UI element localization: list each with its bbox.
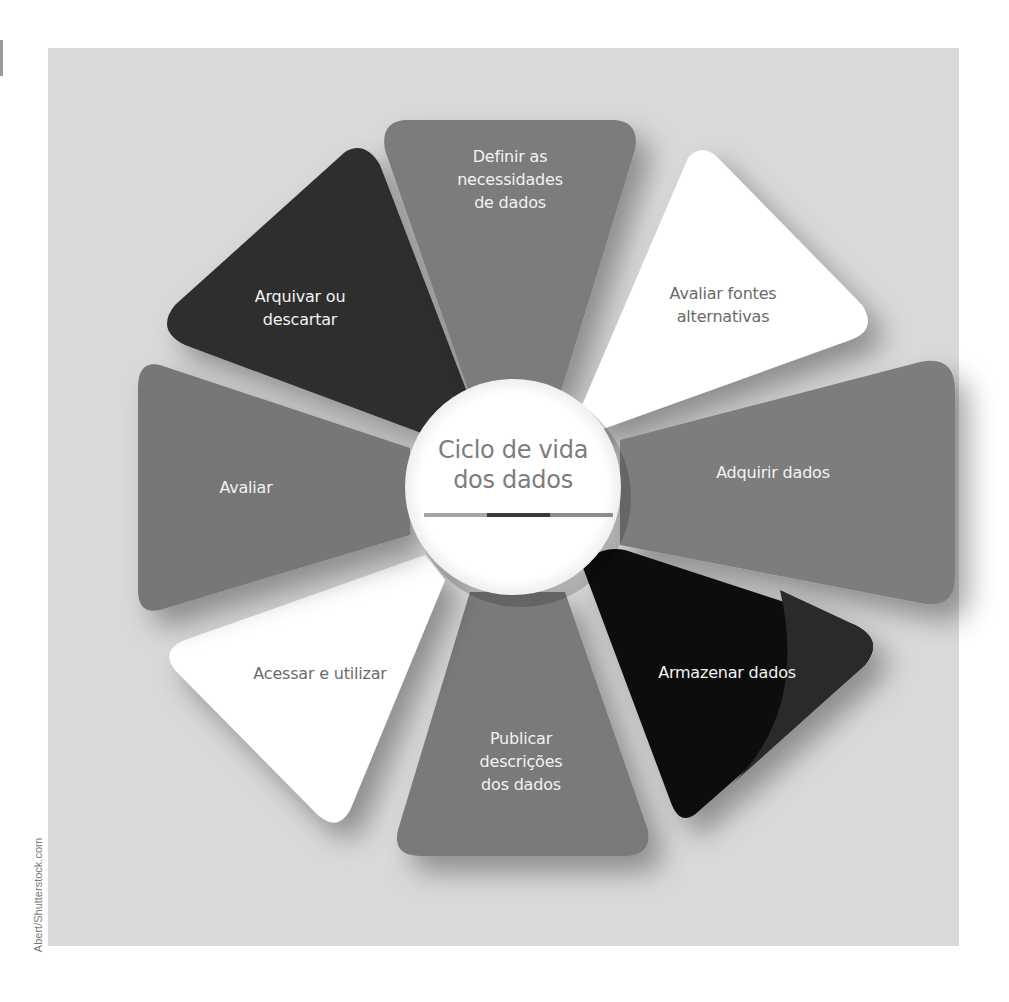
stage-label-avaliar-fontes: Avaliar fontes alternativas [670,282,777,328]
underline-segment-dark [487,513,550,517]
title-underline [424,513,613,517]
stage-label-definir: Definir as necessidades de dados [457,145,563,214]
underline-segment-medium [550,513,613,517]
underline-segment-light [424,513,487,517]
diagram-title: Ciclo de vida dos dados [438,435,588,495]
stage-label-armazenar: Armazenar dados [658,661,796,684]
stage-label-avaliar: Avaliar [219,476,272,499]
stage-label-publicar: Publicar descrições dos dados [480,727,563,796]
stage-label-adquirir: Adquirir dados [716,461,830,484]
image-credit: Abert/Shutterstock.com [32,838,44,952]
petal-acessar [169,555,445,822]
stage-label-arquivar: Arquivar ou descartar [255,285,346,331]
stage-label-acessar: Acessar e utilizar [253,662,386,685]
